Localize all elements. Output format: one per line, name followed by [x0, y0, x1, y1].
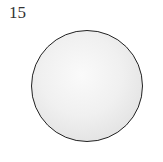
figure-number-label: 15 — [9, 4, 26, 21]
figure-canvas: 15 — [0, 0, 163, 162]
shaded-circle — [31, 30, 143, 142]
